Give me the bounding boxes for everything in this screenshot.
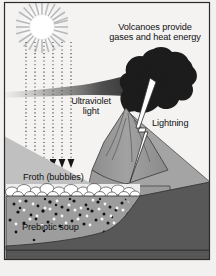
- sun-icon: [16, 1, 68, 53]
- label-lightning: Lightning: [152, 118, 188, 128]
- label-volcanoes-provide: Volcanoes provide gases and heat energy: [96, 22, 214, 43]
- label-ultraviolet-light: Ultraviolet light: [60, 96, 122, 117]
- label-froth-bubbles: Froth (bubbles): [23, 172, 84, 182]
- diagram-canvas: Volcanoes provide gases and heat energy …: [0, 0, 216, 276]
- label-prebiotic-soup: Prebiotic soup: [22, 222, 79, 232]
- bedrock: [6, 250, 210, 260]
